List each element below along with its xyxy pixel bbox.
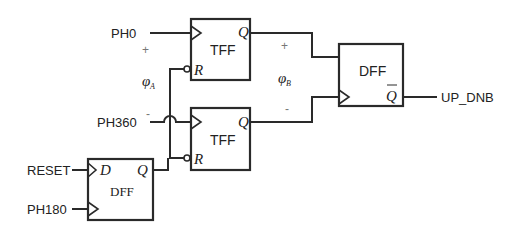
wire-phi-a-plus	[250, 33, 339, 57]
minus-a-sign: -	[146, 107, 150, 121]
inversion-bubble-icon	[184, 155, 190, 161]
wire-phi-b-minus	[250, 97, 339, 122]
phi-a-label: φ A	[142, 73, 155, 91]
tff-top-r-label: R	[193, 62, 203, 78]
plus-b-sign: +	[281, 39, 288, 53]
circuit-diagram: TFF Q R TFF Q R DFF Q DFF D Q PH0 PH360 …	[0, 0, 513, 237]
dff-right: DFF Q	[339, 44, 403, 106]
tff-bottom-r-label: R	[193, 151, 203, 167]
dff-right-label: DFF	[359, 63, 386, 79]
input-ph0-label: PH0	[111, 26, 136, 41]
tff-top-q-label: Q	[238, 24, 249, 40]
dff-left: DFF D Q	[88, 159, 153, 220]
wire-reset-bus	[170, 69, 184, 158]
tff-bottom-label: TFF	[210, 132, 236, 148]
tff-top-label: TFF	[210, 42, 236, 58]
phi-b-subscript: B	[286, 79, 291, 88]
phi-b-label: φ B	[278, 70, 291, 88]
wire-dff-q	[153, 158, 168, 170]
tff-bottom-q-label: Q	[238, 114, 249, 130]
phi-a-subscript: A	[149, 82, 155, 91]
inversion-bubble-icon	[184, 66, 190, 72]
input-reset-label: RESET	[27, 163, 70, 178]
input-ph180-label: PH180	[27, 202, 67, 217]
input-ph360-label: PH360	[97, 115, 137, 130]
dff-left-q-label: Q	[137, 162, 148, 178]
tff-bottom: TFF Q R	[184, 108, 250, 170]
minus-b-sign: -	[285, 102, 289, 116]
dff-left-d-label: D	[99, 162, 111, 178]
dff-right-qbar-label: Q	[386, 88, 397, 104]
dff-left-label: DFF	[110, 184, 134, 199]
tff-top: TFF Q R	[184, 19, 250, 80]
plus-a-sign: +	[142, 43, 149, 57]
output-up-dnb-label: UP_DNB	[441, 90, 494, 105]
